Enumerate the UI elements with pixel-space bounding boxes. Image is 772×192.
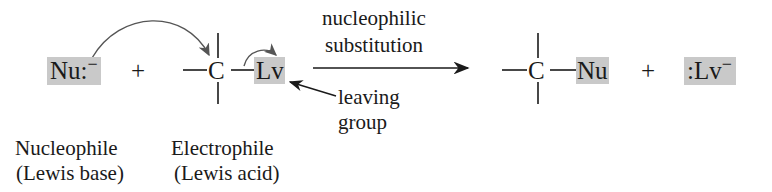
- leaving-group-reactant: Lv: [256, 57, 284, 84]
- caption-electrophile: Electrophile: [171, 136, 274, 160]
- plus-sign-products: +: [641, 57, 655, 84]
- leaving-group-label-line1: leaving: [338, 85, 400, 109]
- nucleophile-symbol: Nu: [50, 57, 81, 84]
- leaving-group-symbol: Lv: [694, 57, 722, 84]
- caption-nucleophile: Nucleophile: [15, 136, 118, 160]
- product-carbon: C: [528, 57, 545, 84]
- product-nucleophile: Nu: [577, 57, 608, 84]
- arrow-label-line2: substitution: [325, 33, 423, 57]
- lone-pair: :: [687, 57, 694, 84]
- caption-nucleophile-lewis: (Lewis base): [16, 161, 124, 185]
- lone-pair: :: [81, 57, 88, 84]
- arrow-label-line1: nucleophilic: [322, 6, 426, 30]
- leaving-group-anion: :Lv−: [687, 57, 732, 84]
- leaving-group-label-line2: group: [338, 110, 387, 134]
- caption-electrophile-lewis: (Lewis acid): [174, 161, 280, 185]
- negative-charge: −: [88, 54, 98, 74]
- nucleophile-reactant: Nu:−: [50, 57, 98, 84]
- leaving-group-pointer-arrow: [290, 82, 336, 96]
- negative-charge: −: [722, 54, 732, 74]
- electrophile-carbon: C: [208, 57, 225, 84]
- curved-arrow-nucleophile-attack: [92, 21, 209, 58]
- plus-sign-reactants: +: [131, 57, 145, 84]
